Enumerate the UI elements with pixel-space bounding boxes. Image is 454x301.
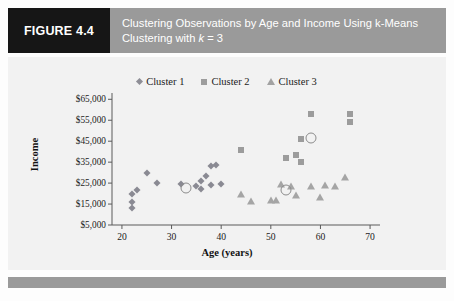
figure-title: Clustering Observations by Age and Incom… [110, 8, 446, 53]
data-point-cluster-3 [237, 190, 245, 197]
centroid-marker-2 [305, 133, 316, 144]
data-point-cluster-2 [347, 119, 353, 125]
y-tick-label: $65,000 [50, 94, 106, 104]
data-point-cluster-2 [298, 136, 304, 142]
data-point-cluster-2 [283, 155, 289, 161]
figure-number-label: FIGURE 4.4 [8, 8, 110, 53]
x-tick-label: 40 [206, 231, 236, 242]
data-point-cluster-3 [331, 183, 339, 190]
chart-panel: Cluster 1 Cluster 2 Cluster 3 Income Age… [8, 57, 446, 270]
x-tick-label: 50 [256, 231, 286, 242]
figure-title-text-1: Clustering Observations by Age and Incom… [122, 17, 418, 29]
y-tick-label: $5,000 [50, 220, 106, 230]
data-point-cluster-2 [238, 147, 244, 153]
figure-title-text-2a: Clustering with [122, 32, 198, 44]
data-point-cluster-3 [316, 193, 324, 200]
figure-title-text-2b: = 3 [204, 32, 223, 44]
data-point-cluster-3 [307, 183, 315, 190]
x-tick-label: 70 [355, 231, 385, 242]
figure-container: FIGURE 4.4 Clustering Observations by Ag… [0, 0, 454, 301]
y-tick-label: $55,000 [50, 115, 106, 125]
x-tick-label: 60 [305, 231, 335, 242]
y-tick-label: $15,000 [50, 199, 106, 209]
data-point-cluster-3 [341, 173, 349, 180]
data-point-cluster-3 [292, 191, 300, 198]
data-point-cluster-2 [347, 111, 353, 117]
figure-footer-bar [8, 277, 446, 288]
x-tick-label: 30 [157, 231, 187, 242]
data-point-cluster-3 [247, 197, 255, 204]
data-point-cluster-2 [308, 111, 314, 117]
y-tick-label: $45,000 [50, 136, 106, 146]
data-point-cluster-2 [298, 159, 304, 165]
x-tick-label: 20 [107, 231, 137, 242]
centroid-marker-1 [181, 183, 192, 194]
data-point-cluster-3 [321, 182, 329, 189]
y-tick-label: $25,000 [50, 178, 106, 188]
y-tick-label: $35,000 [50, 157, 106, 167]
figure-header: FIGURE 4.4 Clustering Observations by Ag… [8, 8, 446, 53]
data-point-cluster-3 [272, 196, 280, 203]
centroid-marker-3 [280, 185, 291, 196]
data-point-cluster-2 [293, 152, 299, 158]
